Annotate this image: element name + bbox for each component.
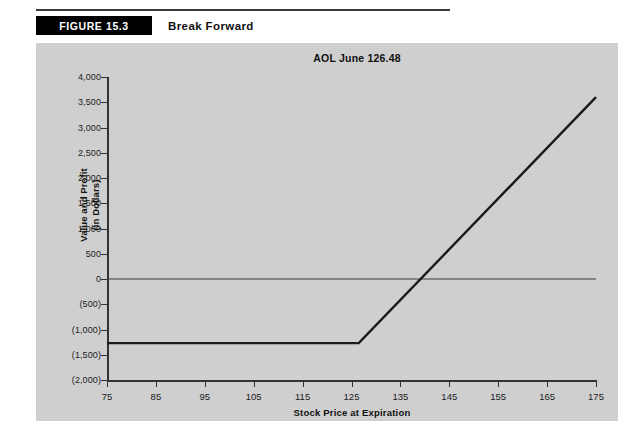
y-axis-tick-label: 3,500 (37, 97, 101, 107)
y-axis-tick (101, 229, 108, 230)
x-axis-tick-label: 105 (234, 391, 274, 402)
y-axis-tick (101, 279, 108, 280)
chart-plot-area (36, 43, 618, 421)
x-axis-tick (303, 380, 304, 387)
x-axis-title: Stock Price at Expiration (107, 407, 597, 418)
x-axis-tick (205, 380, 206, 387)
y-axis-tick (101, 304, 108, 305)
x-axis-tick-label: 75 (87, 391, 127, 402)
y-axis-tick (101, 128, 108, 129)
x-axis-tick (352, 380, 353, 387)
x-axis-tick-label: 165 (527, 391, 567, 402)
x-axis-tick-label: 175 (576, 391, 616, 402)
x-axis-tick-label: 155 (478, 391, 518, 402)
figure-header: FIGURE 15.3 Break Forward (0, 0, 635, 43)
x-axis-tick-label: 145 (429, 391, 469, 402)
chart-panel: AOL June 126.48 (2,000)(1,500)(1,000)(50… (36, 43, 618, 421)
figure-title: Break Forward (168, 16, 254, 35)
x-axis-tick-label: 125 (332, 391, 372, 402)
y-axis-tick-label: (2,000) (37, 375, 101, 385)
y-axis-tick-label: (1,500) (37, 350, 101, 360)
y-axis-title: Value and Profit (in Dollars) (78, 145, 102, 265)
x-axis-tick (547, 380, 548, 387)
y-axis-tick (101, 330, 108, 331)
chart-title: AOL June 126.48 (36, 52, 618, 64)
figure-number-badge: FIGURE 15.3 (36, 16, 152, 35)
x-axis-tick (449, 380, 450, 387)
y-axis-tick-label: 0 (37, 274, 101, 284)
x-axis-tick-label: 85 (136, 391, 176, 402)
y-axis-title-line1: Value and Profit (78, 168, 89, 241)
x-axis-tick-label: 95 (185, 391, 225, 402)
x-axis-tick (498, 380, 499, 387)
y-axis-tick (101, 254, 108, 255)
y-axis-tick (101, 102, 108, 103)
y-axis-tick-label: 4,000 (37, 72, 101, 82)
y-axis-tick (101, 203, 108, 204)
x-axis-tick (596, 380, 597, 387)
x-axis-tick-label: 115 (283, 391, 323, 402)
payoff-line (107, 97, 596, 343)
x-axis-tick (254, 380, 255, 387)
x-axis-tick-label: 135 (380, 391, 420, 402)
y-axis-tick (101, 355, 108, 356)
x-axis-tick (400, 380, 401, 387)
header-divider (36, 9, 450, 11)
y-axis-tick-label: (500) (37, 299, 101, 309)
x-axis-tick (107, 380, 108, 387)
y-axis-tick (101, 77, 108, 78)
y-axis-tick-label: 3,000 (37, 123, 101, 133)
y-axis-tick (101, 178, 108, 179)
y-axis-tick-label: (1,000) (37, 325, 101, 335)
y-axis-tick (101, 153, 108, 154)
y-axis-title-line2: (in Dollars) (90, 180, 101, 231)
x-axis-tick (156, 380, 157, 387)
